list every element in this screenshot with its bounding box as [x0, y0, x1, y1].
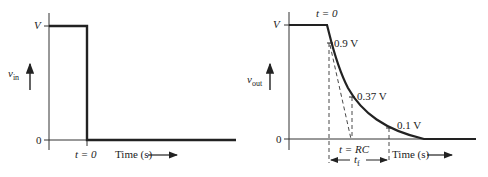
right-y-tick-0: 0 — [276, 134, 282, 145]
right-event-label: t = 0 — [316, 8, 337, 19]
left-y-label: vin — [8, 68, 19, 79]
annotation-0.9v: 0.9 V — [334, 38, 358, 49]
right-plot — [270, 12, 476, 163]
tangent-line — [330, 45, 351, 139]
left-event-label: t = 0 — [75, 149, 96, 160]
left-y-tick-v: V — [34, 20, 41, 31]
tf-right-arrow-icon — [380, 157, 388, 163]
right-x-label: Time (s) — [392, 149, 429, 160]
left-plot — [30, 13, 236, 155]
annotation-0.37v: 0.37 V — [357, 91, 387, 102]
input-step-waveform — [49, 26, 236, 140]
right-y-tick-v: V — [273, 19, 280, 30]
output-decay-waveform — [289, 25, 476, 139]
left-x-label: Time (s) — [115, 149, 152, 160]
right-y-label: vout — [247, 74, 262, 85]
tf-left-arrow-icon — [330, 157, 338, 163]
annotation-0.1v: 0.1 V — [397, 120, 421, 131]
left-y-tick-0: 0 — [36, 135, 42, 146]
fall-time-label: tf — [354, 154, 360, 165]
